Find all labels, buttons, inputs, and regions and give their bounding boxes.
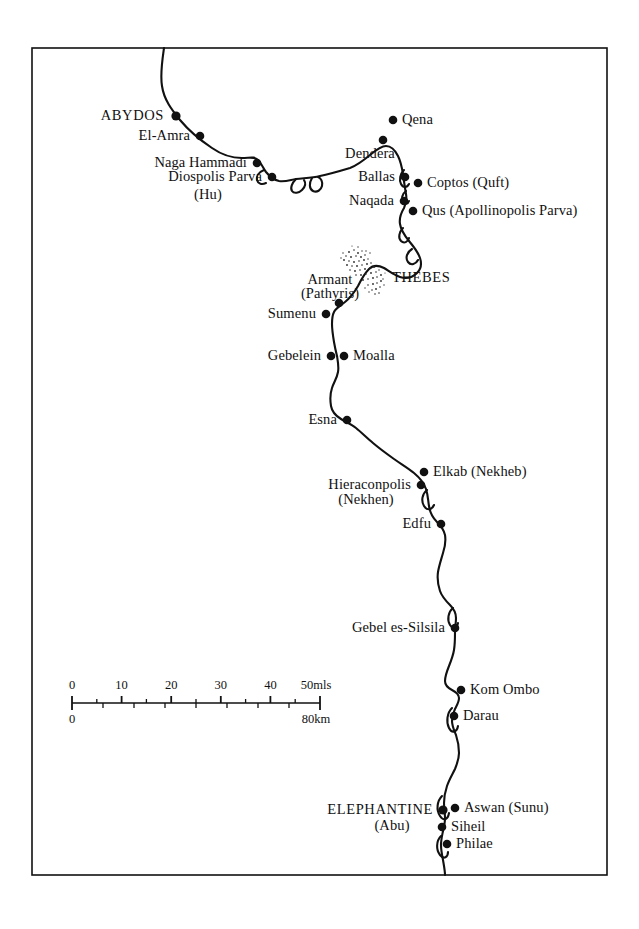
site-label-aswan: Aswan (Sunu) [464,800,549,815]
scale-label-miles-40: 40 [264,678,277,693]
site-dot-qena[interactable] [389,116,398,125]
site-label-elephantine: ELEPHANTINE [327,802,433,817]
site-label-gebel-es-silsila: Gebel es-Silsila [352,620,445,635]
scale-label-miles-20: 20 [165,678,178,693]
site-dot-aswan[interactable] [451,804,460,813]
site-dot-esna[interactable] [343,416,352,425]
site-label-kom-ombo: Kom Ombo [470,682,540,697]
site-label-siheil: Siheil [451,819,485,834]
site-label-dendera: Dendera [345,146,395,161]
site-dot-diospolis-parva[interactable] [268,173,277,182]
site-dot-naga-hammadi[interactable] [253,159,262,168]
scale-label-km-0: 0 [69,712,75,727]
map-background [0,0,639,929]
site-label-qus: Qus (Apollinopolis Parva) [422,203,578,218]
site-label-darau: Darau [463,708,499,723]
site-dot-gebel-es-silsila[interactable] [451,624,460,633]
site-label-nekhen: (Nekhen) [338,492,394,507]
site-dot-abydos[interactable] [171,111,180,120]
site-label-thebes: THEBES [392,270,450,285]
site-label-hieraconpolis: Hieraconpolis [328,477,411,492]
site-dot-el-amra[interactable] [196,132,205,141]
site-label-hu: (Hu) [194,187,222,202]
scale-label-miles-0: 0 [69,678,75,693]
scale-label-miles-30: 30 [215,678,228,693]
site-dot-gebelein[interactable] [327,352,336,361]
site-label-qena: Qena [402,112,433,127]
site-dot-elkab[interactable] [420,468,429,477]
site-dot-edfu[interactable] [437,520,446,529]
site-dot-moalla[interactable] [340,352,349,361]
scale-label-miles-10: 10 [115,678,128,693]
site-label-esna: Esna [308,412,337,427]
site-dot-hieraconpolis[interactable] [417,481,426,490]
site-dot-philae[interactable] [443,840,452,849]
site-label-el-amra: El-Amra [139,128,190,143]
site-dot-coptos[interactable] [414,179,423,188]
site-label-diospolis-parva: Diospolis Parva [168,169,262,184]
site-dot-siheil[interactable] [438,823,447,832]
site-dot-ballas[interactable] [401,173,410,182]
site-label-ballas: Ballas [358,169,395,184]
site-dot-sumenu[interactable] [322,310,331,319]
map-canvas [0,0,639,929]
scale-unit-miles: 50mls [301,678,332,693]
site-label-philae: Philae [456,836,493,851]
site-dot-kom-ombo[interactable] [457,686,466,695]
scale-unit-km: 80km [302,712,330,727]
site-label-abydos: ABYDOS [101,108,164,123]
site-label-pathyris: (Pathyris) [301,286,359,301]
site-label-sumenu: Sumenu [268,306,316,321]
site-label-coptos: Coptos (Quft) [427,175,509,190]
site-dot-elephantine[interactable] [438,805,447,814]
site-dot-dendera[interactable] [379,136,388,145]
site-label-elkab: Elkab (Nekheb) [433,464,527,479]
site-label-edfu: Edfu [402,516,431,531]
site-dot-naqada[interactable] [400,197,409,206]
map-root: ABYDOSEl-AmraNaga HammadiDiospolis Parva… [0,0,639,929]
site-dot-qus[interactable] [409,207,418,216]
site-label-moalla: Moalla [353,348,395,363]
site-label-gebelein: Gebelein [268,348,321,363]
site-label-naqada: Naqada [349,193,394,208]
site-label-abu: (Abu) [374,818,409,833]
site-dot-darau[interactable] [450,712,459,721]
